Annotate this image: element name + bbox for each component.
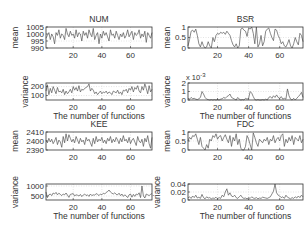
y-tick-label: 0.5 (175, 33, 187, 42)
y-tick-label: 0 (182, 44, 187, 53)
subplot-5: 5001000204060The number of functionsvari… (10, 176, 152, 221)
x-tick-label: 40 (97, 51, 106, 60)
y-tick-label: 2410 (26, 128, 44, 137)
x-axis-label: The number of functions (53, 211, 145, 221)
y-tick-label: 100 (31, 91, 45, 100)
x-tick-label: 60 (126, 153, 135, 162)
y-tick-label: 1 (182, 128, 187, 137)
data-series (188, 89, 303, 100)
axes-box (46, 184, 152, 200)
y-tick-label: 0.02 (170, 188, 186, 197)
y-axis-label: variance (152, 176, 162, 208)
x-tick-label: 20 (69, 51, 78, 60)
y-tick-label: 1000 (26, 182, 44, 191)
y-tick-label: 0 (182, 96, 187, 105)
subplot-2: 00.51204060BSRmean (162, 14, 303, 60)
x-tick-label: 40 (244, 153, 253, 162)
y-tick-label: 1005 (26, 23, 44, 32)
x-axis-label: The number of functions (200, 211, 292, 221)
y-tick-label: 500 (31, 192, 45, 201)
subplot-6: 00.51204060FDCmean (162, 119, 303, 162)
y-tick-label: 1 (182, 87, 187, 96)
y-tick-label: 0.04 (170, 180, 186, 189)
y-axis-label: mean (162, 130, 172, 152)
data-series (188, 133, 303, 150)
y-axis-label: mean (162, 27, 172, 49)
subplot-title: NUM (89, 14, 108, 24)
y-tick-label: 0 (182, 196, 187, 205)
subplot-1: 100200204060The number of functionsvaria… (20, 75, 152, 121)
y-axis-label: variance (10, 176, 20, 208)
subplot-4: 239024002410204060KEEmean (10, 119, 152, 162)
x-tick-label: 60 (275, 153, 284, 162)
subplot-3: 012204060The number of functionsvariance… (162, 72, 303, 121)
y-tick-label: 1 (182, 23, 187, 32)
subplot-title: BSR (237, 14, 254, 24)
subplot-title: FDC (237, 119, 254, 129)
subplot-title: KEE (90, 119, 107, 129)
x-tick-label: 20 (213, 51, 222, 60)
y-tick-label: 200 (31, 82, 45, 91)
axes-box (46, 27, 152, 48)
y-axis-label: mean (10, 27, 20, 49)
axes-box (46, 83, 152, 100)
x-tick-label: 40 (244, 51, 253, 60)
data-series (46, 28, 152, 43)
data-series (46, 84, 152, 95)
subplot-0: 99099510001005204060NUMmean (10, 14, 152, 60)
y-axis-label: variance (162, 75, 172, 107)
subplot-7: 00.020.04204060The number of functionsva… (152, 176, 303, 221)
y-tick-label: 2400 (26, 137, 44, 146)
x-tick-label: 20 (69, 153, 78, 162)
data-series (188, 184, 303, 199)
y-tick-label: 0 (182, 146, 187, 155)
x-tick-label: 60 (275, 51, 284, 60)
y-tick-label: 0.5 (175, 137, 187, 146)
x-tick-label: 40 (97, 153, 106, 162)
y-tick-label: 2390 (26, 146, 44, 155)
y-axis-label: mean (10, 130, 20, 152)
y-scale-exponent: x 10-3 (186, 72, 206, 82)
x-tick-label: 20 (213, 153, 222, 162)
figure: 99099510001005204060NUMmean100200204060T… (0, 0, 306, 236)
x-tick-label: 60 (126, 51, 135, 60)
y-axis-label: variance (20, 75, 30, 107)
